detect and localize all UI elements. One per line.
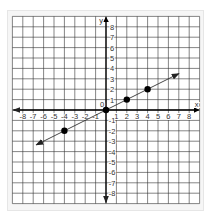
data-point bbox=[124, 96, 130, 102]
coordinate-plane: -8-7-6-5-4-3-2-112345678-8-7-6-5-4-3-2-1… bbox=[0, 0, 210, 217]
y-tick-label: -7 bbox=[109, 179, 116, 188]
y-tick-label: 5 bbox=[110, 54, 114, 63]
x-tick-label: -5 bbox=[51, 112, 58, 121]
x-tick-label: -4 bbox=[61, 112, 68, 121]
x-tick-label: -7 bbox=[30, 112, 37, 121]
x-tick-label: 4 bbox=[146, 112, 150, 121]
x-tick-label: 6 bbox=[166, 112, 170, 121]
origin-label: 0 bbox=[100, 100, 104, 109]
y-tick-label: -8 bbox=[109, 189, 116, 198]
data-point bbox=[144, 86, 150, 92]
y-tick-label: 4 bbox=[110, 64, 114, 73]
y-tick-label: 6 bbox=[110, 44, 114, 53]
y-tick-label: -5 bbox=[109, 158, 116, 167]
data-point bbox=[103, 107, 109, 113]
x-tick-label: -3 bbox=[71, 112, 78, 121]
x-axis-label: x bbox=[195, 100, 199, 109]
y-tick-label: -2 bbox=[109, 127, 116, 136]
y-axis-label: y bbox=[99, 16, 103, 25]
x-tick-label: 8 bbox=[187, 112, 191, 121]
x-tick-label: 2 bbox=[125, 112, 129, 121]
y-tick-label: -6 bbox=[109, 168, 116, 177]
x-tick-label: 3 bbox=[135, 112, 139, 121]
x-tick-label: 7 bbox=[177, 112, 181, 121]
y-tick-label: 7 bbox=[110, 33, 114, 42]
x-tick-label: -8 bbox=[19, 112, 26, 121]
y-tick-label: 3 bbox=[110, 75, 114, 84]
y-tick-label: -1 bbox=[109, 116, 116, 125]
y-tick-label: -4 bbox=[109, 148, 116, 157]
y-tick-label: -3 bbox=[109, 137, 116, 146]
y-tick-label: 1 bbox=[110, 96, 114, 105]
y-tick-label: 2 bbox=[110, 85, 114, 94]
y-tick-label: 8 bbox=[110, 23, 114, 32]
x-tick-label: -6 bbox=[40, 112, 47, 121]
x-tick-label: 5 bbox=[156, 112, 160, 121]
data-point bbox=[61, 128, 67, 134]
